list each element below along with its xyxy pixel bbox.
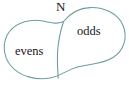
region-divider-path	[57, 22, 63, 79]
universe-label: N	[56, 0, 65, 13]
set-diagram-figure: N odds evens	[0, 0, 129, 95]
evens-region-label: evens	[15, 45, 43, 58]
odds-region-label: odds	[77, 25, 101, 38]
